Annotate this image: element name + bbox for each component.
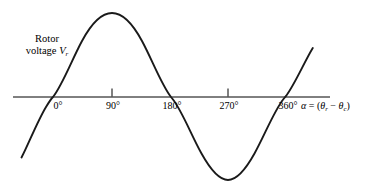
x-tick-label-90deg: 90° xyxy=(106,100,120,112)
y-axis-label-voltage-text: voltage xyxy=(26,45,60,56)
plot-area xyxy=(0,0,389,192)
close-paren: ) xyxy=(346,100,349,111)
x-tick-label-180deg: 180° xyxy=(163,100,182,112)
x-tick-label-270deg: 270° xyxy=(220,100,239,112)
sine-wave-figure: Rotor voltage Vr 0° 90° 180° 270° 360° α… xyxy=(0,0,389,192)
x-tick-label-360deg: 360° xyxy=(279,100,298,112)
y-axis-label: Rotor voltage Vr xyxy=(14,33,80,58)
y-axis-label-subscript: r xyxy=(66,50,69,58)
x-tick-label-0deg: 0° xyxy=(54,100,63,112)
x-axis-expression: α = (θr − θc) xyxy=(301,100,350,113)
y-axis-label-line1: Rotor xyxy=(35,33,59,44)
y-axis-label-line2: voltage Vr xyxy=(14,45,80,58)
